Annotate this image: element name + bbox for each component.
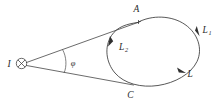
current-into-page-icon (16, 58, 26, 68)
figure-canvas: A C I φ L 1 L 2 L (0, 0, 223, 100)
arrowhead-l1 (195, 26, 200, 36)
label-curve-l1-subscript: 1 (209, 29, 212, 36)
label-angle-phi: φ (71, 58, 76, 68)
label-curve-l1-base: L (202, 25, 208, 35)
label-curve-l2-subscript: 2 (125, 46, 128, 53)
label-curve-l2-base: L (118, 42, 124, 52)
closed-loop-path (107, 17, 200, 86)
label-curve-l: L (187, 69, 193, 79)
label-curve-l2: L 2 (118, 42, 128, 54)
arrowhead-l (177, 68, 186, 74)
physics-diagram-svg: A C I φ L 1 L 2 L (0, 0, 223, 100)
label-current: I (6, 59, 11, 69)
label-curve-l1: L 1 (202, 25, 212, 37)
label-point-c: C (127, 90, 134, 100)
angle-arc (63, 50, 66, 74)
label-point-a: A (133, 4, 140, 14)
